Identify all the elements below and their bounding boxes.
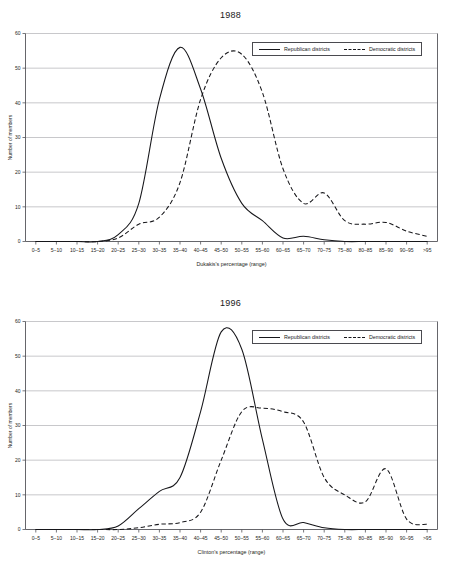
y-tick-label-0: 0 (18, 526, 21, 532)
legend-1988: Republican districts Democratic district… (252, 42, 422, 56)
x-tick-label-10: 50–55 (235, 247, 249, 253)
x-tick-label-19: >95 (423, 247, 432, 253)
chart-group-1988: 01020304050600–55–1010–1515–2020–2525–30… (7, 30, 438, 266)
y-tick-label-30: 30 (15, 134, 21, 140)
y-tick-label-50: 50 (15, 65, 21, 71)
plot-area-1988: 01020304050600–55–1010–1515–2020–2525–30… (0, 20, 461, 288)
y-tick-label-50: 50 (15, 353, 21, 359)
series-line-democratic (36, 407, 427, 530)
legend-1996: Republican districts Democratic district… (252, 330, 422, 344)
plot-svg-1996: 01020304050600–55–1010–1515–2020–2525–30… (0, 308, 461, 573)
x-tick-label-2: 10–15 (70, 247, 84, 253)
y-tick-label-60: 60 (15, 30, 21, 36)
chart-group-1996: 01020304050600–55–1010–1515–2020–2525–30… (7, 318, 438, 554)
x-tick-label-11: 55–60 (255, 247, 269, 253)
x-tick-label-14: 70–75 (317, 247, 331, 253)
x-tick-label-16: 80–85 (358, 247, 372, 253)
y-axis-title: Number of members (7, 114, 13, 160)
x-tick-label-4: 20–25 (111, 247, 125, 253)
x-tick-label-16: 80–85 (358, 535, 372, 541)
legend-label-democratic: Democratic districts (369, 46, 415, 53)
x-tick-label-17: 85–90 (379, 535, 393, 541)
x-tick-label-5: 25–30 (132, 535, 146, 541)
chart-panel-1996: 1996 01020304050600–55–1010–1515–2020–25… (0, 288, 461, 573)
y-tick-label-10: 10 (15, 204, 21, 210)
x-tick-label-19: >95 (423, 535, 432, 541)
x-tick-label-7: 35–40 (173, 247, 187, 253)
x-tick-label-8: 40–45 (194, 535, 208, 541)
y-tick-label-60: 60 (15, 318, 21, 324)
y-tick-label-20: 20 (15, 457, 21, 463)
x-tick-label-12: 60–65 (276, 247, 290, 253)
x-tick-label-7: 35–40 (173, 535, 187, 541)
plot-svg-1988: 01020304050600–55–1010–1515–2020–2525–30… (0, 20, 461, 288)
x-tick-label-12: 60–65 (276, 535, 290, 541)
x-tick-label-13: 65–70 (297, 247, 311, 253)
y-tick-label-20: 20 (15, 169, 21, 175)
x-tick-label-0: 0–5 (32, 535, 41, 541)
x-tick-label-1: 5–10 (51, 247, 62, 253)
series-line-republican (36, 47, 427, 242)
y-tick-label-0: 0 (18, 238, 21, 244)
y-tick-label-10: 10 (15, 492, 21, 498)
x-tick-label-18: 90–95 (400, 247, 414, 253)
x-tick-label-1: 5–10 (51, 535, 62, 541)
x-tick-label-8: 40–45 (194, 247, 208, 253)
x-tick-label-18: 90–95 (400, 535, 414, 541)
x-tick-label-2: 10–15 (70, 535, 84, 541)
legend-label-republican: Republican districts (284, 46, 330, 53)
chart-title-1988: 1988 (0, 0, 461, 20)
x-tick-label-9: 45–50 (214, 247, 228, 253)
x-tick-label-3: 15–20 (91, 247, 105, 253)
x-tick-label-5: 25–30 (132, 247, 146, 253)
x-axis-title: Clinton's percentage (range) (198, 549, 266, 555)
solid-line-icon (259, 49, 280, 50)
x-tick-label-14: 70–75 (317, 535, 331, 541)
dashed-line-icon (344, 337, 365, 338)
x-tick-label-17: 85–90 (379, 247, 393, 253)
x-tick-label-3: 15–20 (91, 535, 105, 541)
x-tick-label-6: 30–35 (152, 535, 166, 541)
figure-page: 1988 01020304050600–55–1010–1515–2020–25… (0, 0, 461, 573)
legend-label-republican: Republican districts (284, 334, 330, 341)
legend-entry-republican: Republican districts (259, 334, 330, 341)
y-tick-label-30: 30 (15, 422, 21, 428)
y-tick-label-40: 40 (15, 100, 21, 106)
x-tick-label-15: 75–80 (338, 247, 352, 253)
x-tick-label-9: 45–50 (214, 535, 228, 541)
x-tick-label-13: 65–70 (297, 535, 311, 541)
x-tick-label-15: 75–80 (338, 535, 352, 541)
x-tick-label-6: 30–35 (152, 247, 166, 253)
x-axis-title: Dukakis's percentage (range) (196, 261, 266, 267)
solid-line-icon (259, 337, 280, 338)
legend-label-democratic: Democratic districts (369, 334, 415, 341)
y-tick-label-40: 40 (15, 388, 21, 394)
series-line-republican (36, 328, 427, 530)
dashed-line-icon (344, 49, 365, 50)
series-line-democratic (36, 51, 427, 242)
x-tick-label-4: 20–25 (111, 535, 125, 541)
x-tick-label-11: 55–60 (255, 535, 269, 541)
x-tick-label-0: 0–5 (32, 247, 41, 253)
plot-area-1996: 01020304050600–55–1010–1515–2020–2525–30… (0, 308, 461, 573)
y-axis-title: Number of members (7, 402, 13, 448)
legend-entry-democratic: Democratic districts (344, 334, 415, 341)
x-tick-label-10: 50–55 (235, 535, 249, 541)
chart-panel-1988: 1988 01020304050600–55–1010–1515–2020–25… (0, 0, 461, 288)
legend-entry-democratic: Democratic districts (344, 46, 415, 53)
chart-title-1996: 1996 (0, 288, 461, 308)
legend-entry-republican: Republican districts (259, 46, 330, 53)
